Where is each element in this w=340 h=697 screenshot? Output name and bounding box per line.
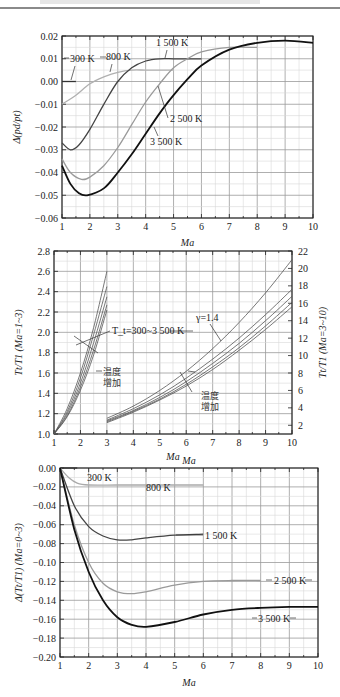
svg-text:7: 7 <box>230 660 235 671</box>
svg-text:2: 2 <box>87 221 92 232</box>
svg-text:800 K: 800 K <box>146 482 172 493</box>
svg-text:3: 3 <box>104 437 109 448</box>
svg-text:T_t=300~3 500 K: T_t=300~3 500 K <box>112 325 185 336</box>
svg-text:5: 5 <box>157 437 162 448</box>
svg-text:9: 9 <box>287 660 292 671</box>
y-axis-title: Tt/T1 (Ma=1~3) <box>13 309 25 376</box>
svg-text:10: 10 <box>287 437 297 448</box>
svg-text:3 500 K: 3 500 K <box>150 136 183 147</box>
svg-text:1: 1 <box>60 221 65 232</box>
grid <box>60 468 318 657</box>
svg-text:20: 20 <box>298 263 308 274</box>
svg-text:1: 1 <box>58 660 63 671</box>
svg-text:3: 3 <box>115 221 120 232</box>
svg-text:10: 10 <box>308 221 318 232</box>
svg-text:2.2: 2.2 <box>38 307 51 318</box>
svg-text:−0.12: −0.12 <box>33 576 56 587</box>
svg-text:6: 6 <box>201 660 206 671</box>
svg-text:6: 6 <box>184 437 189 448</box>
y-tick-labels: 0.00−0.02−0.04−0.06−0.08−0.10−0.12−0.14−… <box>33 463 56 663</box>
svg-text:9: 9 <box>283 221 288 232</box>
svg-text:8: 8 <box>258 660 263 671</box>
svg-text:10: 10 <box>298 350 308 361</box>
annotations: 300 K800 K1 500 K2 500 K3 500 K <box>87 472 312 624</box>
svg-text:4: 4 <box>131 437 136 448</box>
svg-text:1.0: 1.0 <box>38 429 51 440</box>
svg-text:3 500 K: 3 500 K <box>258 613 291 624</box>
svg-text:10: 10 <box>313 660 323 671</box>
y-axis-title: Δ(Tt/T1) (Ma=0~3) <box>13 522 25 603</box>
svg-text:−0.03: −0.03 <box>35 144 58 155</box>
svg-text:2: 2 <box>78 437 83 448</box>
svg-text:0.02: 0.02 <box>41 31 59 42</box>
chart-1: 123456789100.020.010.00−0.01−0.02−0.03−0… <box>11 31 318 249</box>
svg-text:0.00: 0.00 <box>41 76 59 87</box>
svg-text:1.6: 1.6 <box>38 368 51 379</box>
svg-text:5: 5 <box>171 221 176 232</box>
svg-text:18: 18 <box>298 280 308 291</box>
svg-text:−0.01: −0.01 <box>35 99 58 110</box>
svg-text:8: 8 <box>298 368 303 379</box>
svg-text:800 K: 800 K <box>106 51 132 62</box>
svg-text:4: 4 <box>144 660 149 671</box>
svg-text:2.4: 2.4 <box>38 286 51 297</box>
svg-text:3: 3 <box>115 660 120 671</box>
svg-text:1.4: 1.4 <box>38 388 51 399</box>
svg-text:−0.06: −0.06 <box>33 519 56 530</box>
svg-text:8: 8 <box>237 437 242 448</box>
svg-text:0.00: 0.00 <box>39 463 57 474</box>
svg-text:1.2: 1.2 <box>38 408 51 419</box>
svg-text:2.0: 2.0 <box>38 327 51 338</box>
y-right-tick-labels: 222018161412108642 <box>288 246 308 431</box>
svg-text:−0.18: −0.18 <box>33 633 56 644</box>
y-tick-labels: 2.82.62.42.22.01.81.61.41.21.0 <box>38 246 51 440</box>
svg-text:6: 6 <box>298 385 303 396</box>
svg-text:2 500 K: 2 500 K <box>170 113 203 124</box>
svg-text:1 500 K: 1 500 K <box>156 37 189 48</box>
svg-text:4: 4 <box>143 221 148 232</box>
svg-text:300 K: 300 K <box>70 53 96 64</box>
svg-text:2: 2 <box>86 660 91 671</box>
svg-text:14: 14 <box>298 315 308 326</box>
x-axis-title-top: Ma <box>181 455 195 466</box>
svg-text:−0.20: −0.20 <box>33 652 56 663</box>
y-axis-title: Δ(pd/pt) <box>11 110 23 145</box>
y-right-axis-title: Tt/T1 (Ma=3~10) <box>317 306 329 378</box>
svg-text:8: 8 <box>255 221 260 232</box>
chart-2: 123456789102.82.62.42.22.01.81.61.41.21.… <box>13 246 329 463</box>
svg-text:增加: 增加 <box>201 401 219 412</box>
svg-text:1.8: 1.8 <box>38 347 51 358</box>
chart-3: 123456789100.00−0.02−0.04−0.06−0.08−0.10… <box>13 455 323 688</box>
svg-text:−0.16: −0.16 <box>33 614 56 625</box>
annotations: 300 K800 K1 500 K2 500 K3 500 K <box>64 37 203 147</box>
svg-text:−0.06: −0.06 <box>35 213 58 224</box>
svg-text:22: 22 <box>298 246 308 257</box>
x-axis-title: Ma <box>165 451 179 462</box>
svg-text:−0.04: −0.04 <box>35 167 58 178</box>
svg-text:0.01: 0.01 <box>41 53 59 64</box>
svg-text:5: 5 <box>172 660 177 671</box>
svg-text:−0.10: −0.10 <box>33 557 56 568</box>
svg-text:9: 9 <box>263 437 268 448</box>
svg-text:−0.04: −0.04 <box>33 500 56 511</box>
svg-text:1: 1 <box>52 437 57 448</box>
svg-text:12: 12 <box>298 333 308 344</box>
svg-text:7: 7 <box>227 221 232 232</box>
svg-text:2.8: 2.8 <box>38 246 51 257</box>
svg-text:300 K: 300 K <box>87 472 113 483</box>
svg-text:2 500 K: 2 500 K <box>274 575 307 586</box>
svg-text:−0.05: −0.05 <box>35 190 58 201</box>
svg-text:6: 6 <box>199 221 204 232</box>
svg-text:16: 16 <box>298 298 308 309</box>
x-tick-labels: 12345678910 <box>60 221 319 232</box>
y-tick-labels: 0.020.010.00−0.01−0.02−0.03−0.04−0.05−0.… <box>35 31 58 224</box>
svg-text:4: 4 <box>298 402 303 413</box>
svg-text:γ=1.4: γ=1.4 <box>195 312 219 323</box>
x-tick-labels: 12345678910 <box>52 437 298 448</box>
svg-text:温度: 温度 <box>103 366 121 377</box>
x-axis-title: Ma <box>181 677 195 688</box>
svg-text:2.6: 2.6 <box>38 266 51 277</box>
svg-text:−0.08: −0.08 <box>33 538 56 549</box>
svg-text:1 500 K: 1 500 K <box>205 530 238 541</box>
svg-text:−0.14: −0.14 <box>33 595 56 606</box>
